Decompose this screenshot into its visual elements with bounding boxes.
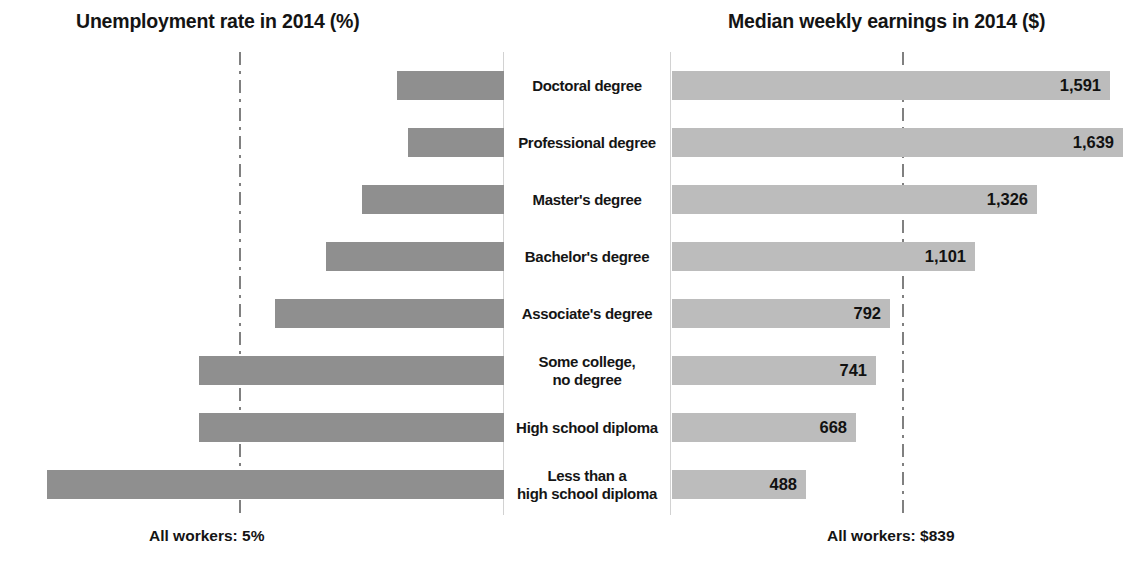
left-panel-footnote: All workers: 5% — [149, 527, 264, 545]
category-label: Less than ahigh school diploma — [503, 456, 671, 513]
chart-row: 2.1Doctoral degree1,591 — [0, 57, 1139, 114]
unemployment-value-label: 6.0 — [0, 362, 190, 379]
earnings-bar-group: 488 — [672, 456, 1139, 513]
category-label: Some college,no degree — [503, 342, 671, 399]
earnings-bar: 1,639 — [672, 128, 1123, 157]
earnings-bar: 1,326 — [672, 185, 1037, 214]
earnings-value-label: 488 — [769, 476, 806, 493]
right-panel-footnote: All workers: $839 — [827, 527, 955, 545]
category-label: High school diploma — [503, 399, 671, 456]
earnings-bar-group: 1,639 — [672, 114, 1139, 171]
unemployment-value-label: 2.8 — [0, 191, 353, 208]
chart-row: 3.5Bachelor's degree1,101 — [0, 228, 1139, 285]
unemployment-value-label: 6.0 — [0, 419, 190, 436]
earnings-bar: 668 — [672, 413, 856, 442]
earnings-bar: 741 — [672, 356, 876, 385]
unemployment-bar — [47, 470, 504, 499]
unemployment-bar-group — [0, 456, 504, 513]
right-panel-title: Median weekly earnings in 2014 ($) — [728, 10, 1045, 33]
unemployment-bar — [275, 299, 504, 328]
earnings-bar: 488 — [672, 470, 806, 499]
category-label: Master's degree — [503, 171, 671, 228]
earnings-bar-group: 792 — [672, 285, 1139, 342]
chart-row: 9.0Less than ahigh school diploma488 — [0, 456, 1139, 513]
earnings-bar-group: 1,591 — [672, 57, 1139, 114]
unemployment-bar — [408, 128, 504, 157]
earnings-bar-group: 668 — [672, 399, 1139, 456]
unemployment-bar — [397, 71, 504, 100]
unemployment-value-label: 1.9 — [0, 134, 399, 151]
chart-row: 6.0High school diploma668 — [0, 399, 1139, 456]
earnings-value-label: 741 — [839, 362, 876, 379]
unemployment-value-label: 4.5 — [0, 305, 266, 322]
earnings-value-label: 792 — [853, 305, 890, 322]
unemployment-value-label: 9.0 — [0, 476, 38, 493]
category-label: Associate's degree — [503, 285, 671, 342]
category-label: Bachelor's degree — [503, 228, 671, 285]
earnings-bar-group: 1,101 — [672, 228, 1139, 285]
chart-row: 1.9Professional degree1,639 — [0, 114, 1139, 171]
earnings-bar: 1,101 — [672, 242, 975, 271]
unemployment-value-label: 2.1 — [0, 77, 388, 94]
earnings-bar-group: 1,326 — [672, 171, 1139, 228]
unemployment-bar — [362, 185, 504, 214]
earnings-bar: 792 — [672, 299, 890, 328]
earnings-bar-group: 741 — [672, 342, 1139, 399]
category-label: Professional degree — [503, 114, 671, 171]
earnings-value-label: 1,639 — [1073, 134, 1123, 151]
chart-row: 2.8Master's degree1,326 — [0, 171, 1139, 228]
chart-row: 6.0Some college,no degree741 — [0, 342, 1139, 399]
earnings-value-label: 1,326 — [987, 191, 1037, 208]
chart-row: 4.5Associate's degree792 — [0, 285, 1139, 342]
left-panel-title: Unemployment rate in 2014 (%) — [76, 10, 360, 33]
earnings-value-label: 1,101 — [925, 248, 975, 265]
unemployment-bar — [199, 356, 504, 385]
unemployment-bar — [199, 413, 504, 442]
unemployment-value-label: 3.5 — [0, 248, 317, 265]
earnings-value-label: 668 — [819, 419, 856, 436]
earnings-bar: 1,591 — [672, 71, 1110, 100]
category-label: Doctoral degree — [503, 57, 671, 114]
education-pays-chart: Unemployment rate in 2014 (%) Median wee… — [0, 0, 1139, 562]
earnings-value-label: 1,591 — [1060, 77, 1110, 94]
unemployment-bar — [326, 242, 504, 271]
